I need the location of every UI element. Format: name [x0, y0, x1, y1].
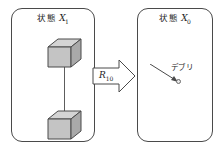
- debris-label: デブリ: [171, 64, 193, 72]
- transition-symbol: R: [99, 70, 106, 80]
- cube-icon: [47, 38, 82, 68]
- panel-right-title: 状態X0: [138, 14, 212, 25]
- transition-subscript: 10: [106, 75, 114, 82]
- satellite-cube-bottom-left: [47, 110, 82, 144]
- panel-right-state-word: 状態: [159, 13, 178, 23]
- transition-arrow-label: R10: [99, 71, 113, 82]
- panel-left-title: 状態X1: [12, 14, 94, 25]
- state-transition-diagram: 状態X1 R10 状態X0: [0, 0, 221, 150]
- panel-right-subscript: 0: [187, 18, 191, 25]
- panel-left-state-word: 状態: [37, 13, 56, 23]
- panel-left-subscript: 1: [65, 18, 69, 25]
- state-panel-left: 状態X1: [11, 8, 95, 142]
- debris-particle-marker: [176, 79, 181, 84]
- satellite-cube-top-left: [47, 38, 82, 72]
- cube-icon: [47, 110, 82, 140]
